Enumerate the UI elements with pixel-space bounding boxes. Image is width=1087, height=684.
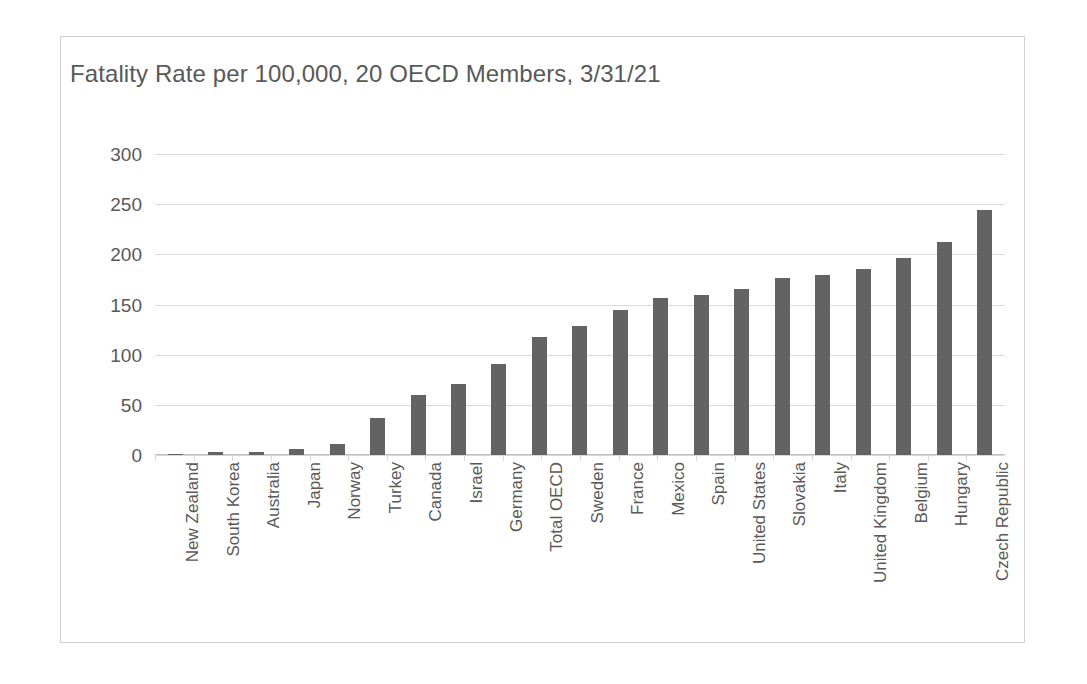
x-axis-label-slot: New Zealand [155, 462, 195, 627]
y-axis-tick-label: 100 [82, 345, 142, 364]
bar-slot [276, 154, 316, 455]
x-axis-label-slot: Czech Republic [964, 462, 1004, 627]
bar-slot [357, 154, 397, 455]
bar[interactable] [491, 364, 506, 455]
y-axis-tick-label: 150 [82, 295, 142, 314]
bar[interactable] [653, 298, 668, 455]
x-axis-label-slot: Hungary [924, 462, 964, 627]
chart-title: Fatality Rate per 100,000, 20 OECD Membe… [70, 60, 661, 88]
x-axis-label-slot: Italy [803, 462, 843, 627]
x-axis-tick [155, 455, 194, 461]
bar[interactable] [977, 210, 992, 455]
x-axis-label-slot: Mexico [641, 462, 681, 627]
x-axis-tick [580, 455, 619, 461]
x-axis-label-slot: South Korea [195, 462, 235, 627]
x-axis-tick [851, 455, 890, 461]
x-axis-tick [503, 455, 542, 461]
x-axis-tick [657, 455, 696, 461]
bar-slot [195, 154, 235, 455]
bar[interactable] [937, 242, 952, 455]
bar-slot [803, 154, 843, 455]
bar-slot [600, 154, 640, 455]
x-axis-label-slot: Norway [317, 462, 357, 627]
x-axis-tick [387, 455, 426, 461]
bar-slot [964, 154, 1004, 455]
bar-slot [479, 154, 519, 455]
x-axis-tick [812, 455, 851, 461]
x-axis-tick [889, 455, 928, 461]
bar-slot [762, 154, 802, 455]
y-axis-labels: 300250200150100500 [90, 154, 142, 455]
x-axis-category-label: Czech Republic [993, 462, 1010, 581]
x-axis-label-slot: Australia [236, 462, 276, 627]
bar-slot [883, 154, 923, 455]
x-axis-labels: New ZealandSouth KoreaAustraliaJapanNorw… [155, 462, 1005, 627]
bar-slot [519, 154, 559, 455]
x-axis-tick [966, 455, 1005, 461]
x-axis-label-slot: Germany [479, 462, 519, 627]
bar[interactable] [532, 337, 547, 455]
x-axis-label-slot: Canada [398, 462, 438, 627]
bar-slot [722, 154, 762, 455]
x-axis-label-slot: Slovakia [762, 462, 802, 627]
x-axis-tick [194, 455, 233, 461]
x-axis-label-slot: Japan [276, 462, 316, 627]
bar[interactable] [734, 289, 749, 455]
y-axis-tick-label: 250 [82, 195, 142, 214]
bar[interactable] [694, 295, 709, 455]
x-axis-label-slot: France [600, 462, 640, 627]
x-axis-label-slot: Total OECD [519, 462, 559, 627]
x-axis-tick [619, 455, 658, 461]
chart-page: Fatality Rate per 100,000, 20 OECD Membe… [0, 0, 1087, 684]
x-axis-tick [541, 455, 580, 461]
bar[interactable] [613, 310, 628, 455]
bar[interactable] [572, 326, 587, 455]
bar-slot [438, 154, 478, 455]
x-axis-tick [464, 455, 503, 461]
bar[interactable] [896, 258, 911, 455]
x-axis-tick [232, 455, 271, 461]
bar-slot [317, 154, 357, 455]
x-axis-label-slot: Belgium [883, 462, 923, 627]
bar[interactable] [451, 384, 466, 455]
y-axis-tick-label: 200 [82, 245, 142, 264]
x-axis-tick [310, 455, 349, 461]
x-axis-tick [271, 455, 310, 461]
y-axis-tick-label: 300 [82, 145, 142, 164]
bar-slot [843, 154, 883, 455]
x-axis-tick [773, 455, 812, 461]
bar[interactable] [330, 444, 345, 455]
y-axis-tick-label: 0 [82, 446, 142, 465]
x-axis-tick [928, 455, 967, 461]
x-axis-tick [735, 455, 774, 461]
y-axis-tick-label: 50 [82, 395, 142, 414]
x-axis-label-slot: Israel [438, 462, 478, 627]
bar-series [155, 154, 1005, 455]
bar-slot [681, 154, 721, 455]
x-axis-tick [348, 455, 387, 461]
bar-slot [560, 154, 600, 455]
x-axis-tickmarks [155, 455, 1005, 461]
x-axis-tick [425, 455, 464, 461]
x-axis-tick [696, 455, 735, 461]
x-axis-label-slot: Spain [681, 462, 721, 627]
bar[interactable] [775, 278, 790, 455]
bar[interactable] [856, 269, 871, 455]
bar[interactable] [815, 275, 830, 455]
x-axis-label-slot: Turkey [357, 462, 397, 627]
bar-slot [398, 154, 438, 455]
bar[interactable] [370, 418, 385, 455]
bar-slot [641, 154, 681, 455]
bar-slot [924, 154, 964, 455]
bar[interactable] [411, 395, 426, 455]
bar-slot [155, 154, 195, 455]
x-axis-label-slot: Sweden [560, 462, 600, 627]
x-axis-label-slot: United States [722, 462, 762, 627]
bar-slot [236, 154, 276, 455]
x-axis-label-slot: United Kingdom [843, 462, 883, 627]
